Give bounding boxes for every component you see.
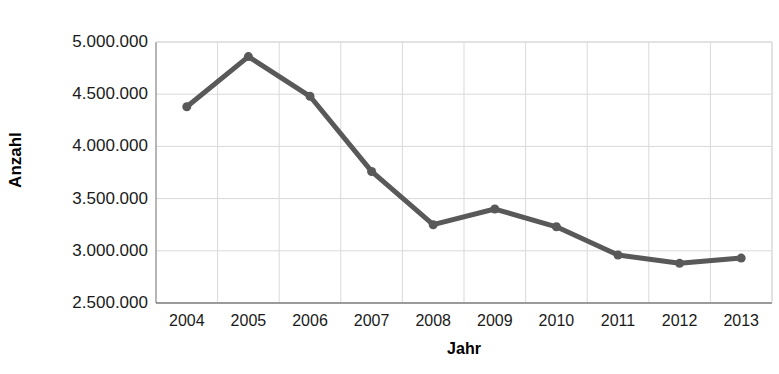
- x-axis-tick-label: 2007: [341, 311, 403, 331]
- data-point-marker: [367, 167, 376, 176]
- data-point-marker: [737, 254, 746, 263]
- x-axis-tick-label: 2012: [649, 311, 711, 331]
- data-point-marker: [614, 250, 623, 259]
- x-axis-tick-label: 2006: [279, 311, 341, 331]
- x-axis-tick-label: 2013: [710, 311, 772, 331]
- x-axis-tick-label: 2009: [464, 311, 526, 331]
- x-axis-tick-label: 2004: [156, 311, 218, 331]
- x-axis-tick-label: 2010: [525, 311, 587, 331]
- data-point-marker: [429, 220, 438, 229]
- x-axis-tick-label: 2011: [587, 311, 649, 331]
- x-axis-tick-label: 2008: [402, 311, 464, 331]
- x-axis-tick-label: 2005: [217, 311, 279, 331]
- data-point-marker: [552, 222, 561, 231]
- data-point-marker: [490, 205, 499, 214]
- x-axis-tick-labels: 2004200520062007200820092010201120122013: [156, 311, 772, 333]
- data-point-marker: [675, 259, 684, 268]
- data-point-marker: [182, 102, 191, 111]
- data-point-marker: [306, 92, 315, 101]
- line-chart: Anzahl 5.000.0004.500.0004.000.0003.500.…: [0, 0, 779, 374]
- data-point-marker: [244, 52, 253, 61]
- x-axis-title: Jahr: [156, 340, 772, 358]
